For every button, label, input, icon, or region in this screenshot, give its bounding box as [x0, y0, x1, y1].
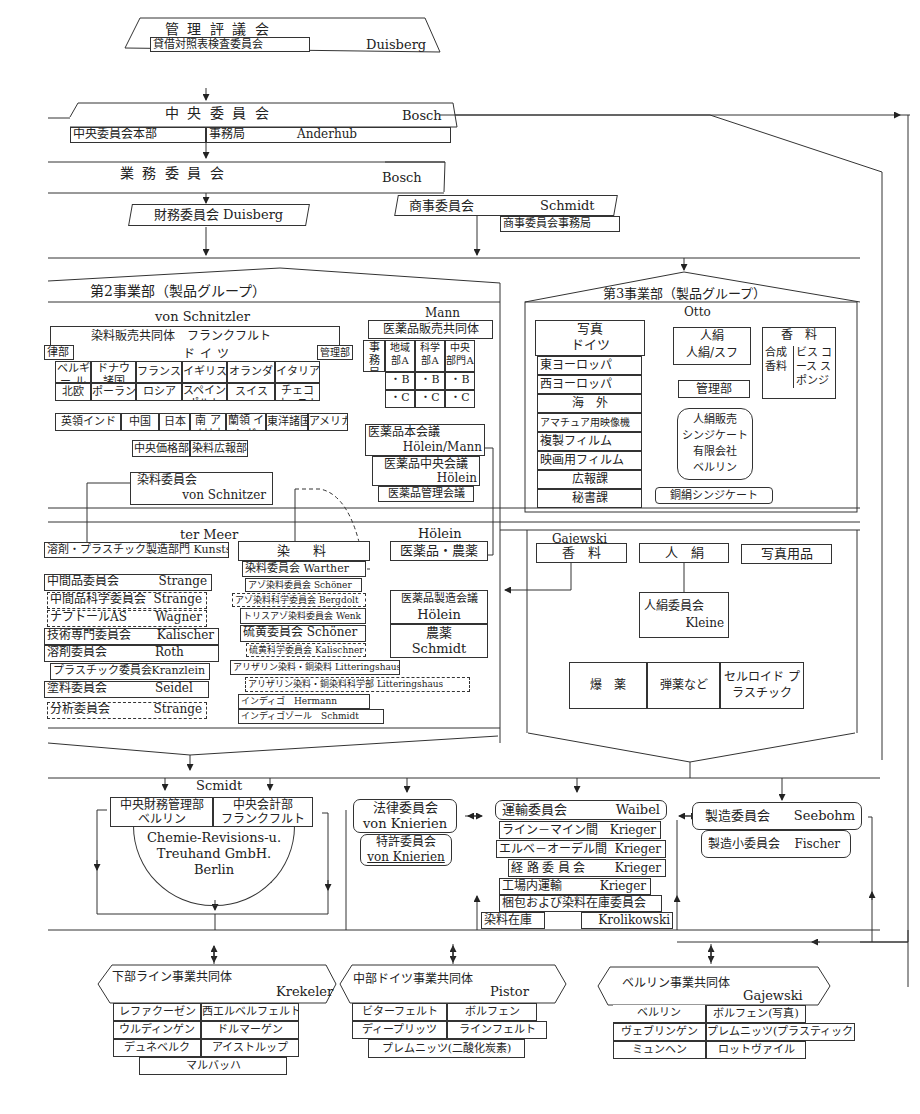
transport-item[interactable]: 経路委員会Krieger	[508, 859, 666, 877]
committee-item[interactable]: 分析委員会 Strange	[47, 702, 207, 719]
dye-item[interactable]: 硫黄科学委員会 Kalischner	[246, 643, 366, 657]
region-cell[interactable]: 西エルベルフェルト	[201, 1003, 299, 1021]
region-cell[interactable]: アイストルップ	[201, 1039, 299, 1057]
pharma-sales-syndicate[interactable]: 医薬品販売共同体	[368, 320, 493, 339]
photo-item[interactable]: 映画用フィルム	[537, 451, 642, 470]
explosives[interactable]: 爆 薬	[569, 662, 647, 709]
pharma-main-council[interactable]: 医薬品本会議 Hölein/Mann	[365, 424, 485, 456]
committee-item[interactable]: 溶剤委員会 Roth	[44, 645, 219, 662]
region-cell[interactable]: ドルマーゲン	[201, 1021, 299, 1039]
grid-cell[interactable]: アメリカ	[308, 413, 348, 431]
pharma-mgmt-council[interactable]: 医薬品管理会議	[378, 486, 474, 502]
grid-cell[interactable]: ベルギー ルクセンブルク	[55, 361, 91, 383]
grid-cell[interactable]: チェコ オーストリア	[275, 383, 320, 401]
region-cell[interactable]: ラインフェルト	[447, 1021, 547, 1039]
div3-admin[interactable]: 管理部	[678, 380, 750, 398]
gajewski-fragrance[interactable]: 香 料	[536, 543, 627, 563]
rayon-box[interactable]: 人絹 人絹/スフ	[673, 327, 751, 365]
pharma-b[interactable]: ・B	[385, 372, 415, 390]
admin-dept[interactable]: 管理部	[317, 345, 353, 360]
central-finance-dept[interactable]: 中央財務管理部 ベルリン	[110, 797, 213, 827]
pharma-c[interactable]: ・C	[415, 390, 445, 408]
grid-cell[interactable]: ポーランド	[91, 383, 136, 401]
pharma-b[interactable]: ・B	[445, 372, 475, 390]
dye-item[interactable]: インディゴ Hermann	[238, 694, 370, 709]
dye-committee[interactable]: 染料委員会 von Schnitzer	[130, 472, 273, 505]
grid-cell[interactable]: 日本	[159, 413, 190, 431]
region-cell[interactable]: デュネベルク	[113, 1039, 201, 1057]
committee-item[interactable]: プラスチック委員会 Kranzlein	[50, 663, 210, 680]
photo-item[interactable]: 西ヨーロッパ	[537, 375, 642, 394]
rayon-sales-syndicate[interactable]: 人絹販売 シンジケート 有限会社 ベルリン	[677, 408, 753, 480]
grid-cell[interactable]: 北欧	[55, 383, 91, 401]
photo-item[interactable]: 広報課	[537, 470, 642, 489]
gajewski-rayon[interactable]: 人 絹	[639, 543, 729, 563]
transport-committee[interactable]: 運輸委員会 Waibel	[495, 800, 667, 820]
legal-dept[interactable]: 律部	[44, 345, 74, 360]
dye-item[interactable]: アゾ染料委員会 Schöner	[245, 578, 362, 592]
pharma-col-region[interactable]: 地域部A	[385, 340, 415, 372]
grid-cell[interactable]: ロシア	[136, 383, 182, 401]
pharma-col-office[interactable]: 事務局	[363, 340, 385, 372]
pharma-agri[interactable]: 医薬品・農薬	[390, 541, 488, 561]
pharma-col-science[interactable]: 科学部A	[415, 340, 445, 372]
region-cell[interactable]: ボルフェン	[447, 1003, 537, 1021]
region-cell[interactable]: ミュンヘン	[613, 1041, 706, 1059]
packing-stock-committee[interactable]: 梱包および染料在庫委員会	[499, 895, 662, 912]
grid-cell[interactable]: イギリス	[182, 361, 227, 383]
dye-item[interactable]: 硫黄委員会 Schöner	[240, 625, 366, 642]
dyes-header[interactable]: 染 料	[238, 541, 370, 561]
grid-cell[interactable]: 中国	[121, 413, 159, 431]
balance-audit-committee[interactable]: 貸借対照表検査委員会	[150, 37, 310, 52]
copper-rayon-syndicate[interactable]: 銅絹シンジケート	[655, 487, 773, 504]
grid-cell[interactable]: フランス	[136, 361, 182, 383]
committee-item[interactable]: 中間品科学委員会 Strange	[47, 592, 207, 609]
committee-item[interactable]: ナフトールAS Wagner	[47, 610, 207, 627]
gajewski-photo[interactable]: 写真用品	[741, 544, 832, 564]
pharma-b[interactable]: ・B	[415, 372, 445, 390]
grid-cell[interactable]: 南 アメリカ	[190, 413, 226, 431]
grid-cell[interactable]: ドナウ 諸国	[91, 361, 136, 383]
region-cell[interactable]: プレムニッツ(二酸化炭素)	[368, 1039, 525, 1058]
finance-committee[interactable]: 財務委員会 Duisberg	[128, 204, 310, 226]
region-cell[interactable]: ビターフェルト	[352, 1003, 447, 1021]
transport-item[interactable]: 工場内運輸Krieger	[499, 878, 651, 895]
photo-item[interactable]: 複製フィルム	[537, 432, 642, 451]
photo-item[interactable]: アマチュア用映像機	[537, 413, 642, 432]
agri[interactable]: 農薬 Schmidt	[390, 624, 488, 658]
commerce-committee-office[interactable]: 商事委員会事務局	[500, 216, 620, 232]
dye-stock[interactable]: 染料在庫	[481, 912, 545, 929]
pharma-c[interactable]: ・C	[445, 390, 475, 408]
legal-committee[interactable]: 法律委員会 von Knierien	[353, 799, 457, 833]
grid-cell[interactable]: イタリア	[275, 361, 320, 383]
grid-cell[interactable]: 東洋諸国	[266, 413, 308, 431]
grid-cell[interactable]: スペイン ポルトガル	[182, 383, 227, 401]
dye-item[interactable]: トリスアゾ染料委員会 Wenk	[240, 608, 366, 624]
committee-item[interactable]: 中間品委員会 Strange	[44, 574, 212, 591]
region-cell[interactable]: プレムニッツ(プラスティック)	[706, 1023, 855, 1041]
central-committee-office[interactable]: 事務局 Anderhub	[206, 127, 451, 143]
patent-committee[interactable]: 特許委員会 von Knierien	[360, 834, 452, 866]
grid-cell[interactable]: オランダ	[227, 361, 275, 383]
grid-cell[interactable]: 英領インド	[55, 413, 121, 431]
dye-item[interactable]: インディゴゾール Schmidt	[238, 709, 384, 724]
transport-item[interactable]: エルベ－オーデル間Krieger	[496, 840, 666, 858]
rayon-committee[interactable]: 人絹委員会 Kleine	[639, 592, 729, 638]
region-cell[interactable]: ディープリッツ	[352, 1021, 447, 1039]
committee-item[interactable]: 技術専門委員会 Kalischer	[44, 628, 219, 645]
ammunition[interactable]: 弾薬など	[647, 662, 720, 709]
region-cell[interactable]: レファクーゼン	[113, 1003, 201, 1021]
photo-germany[interactable]: 写真 ドイツ	[535, 320, 645, 356]
region-cell[interactable]: マルバッハ	[139, 1057, 287, 1075]
commerce-committee[interactable]: 商事委員会 Schmidt	[394, 195, 618, 216]
region-cell[interactable]: ボルフェン(写真)	[706, 1005, 806, 1023]
photo-item[interactable]: 海 外	[537, 394, 642, 413]
grid-cell[interactable]: 蘭領 インド	[226, 413, 266, 431]
dye-item[interactable]: アリザリン染料・銅染料 Litteringshaus	[230, 660, 400, 675]
photo-item[interactable]: 秘書課	[537, 489, 642, 508]
grid-cell[interactable]: 中央価格部	[132, 440, 190, 457]
grid-cell[interactable]: スイス	[227, 383, 275, 401]
dye-sales-syndicate[interactable]: 染料販売共同体 フランクフルト	[50, 326, 340, 346]
transport-item[interactable]: ライン－マイン間Krieger	[499, 821, 661, 839]
region-cell[interactable]: ヴェブリンゲン	[613, 1023, 706, 1041]
